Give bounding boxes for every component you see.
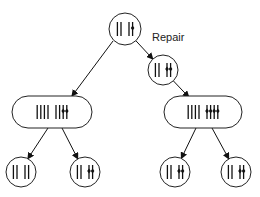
cell-circle xyxy=(109,13,141,45)
node-left-right-child xyxy=(70,157,100,187)
cell-circle xyxy=(221,157,251,187)
arrow-left-replicated-to-left-right-child xyxy=(62,128,78,159)
cell-circle xyxy=(70,157,100,187)
node-right-right-child xyxy=(221,157,251,187)
node-right-left-child xyxy=(160,157,190,187)
arrow-right-replicated-to-right-left-child xyxy=(181,128,196,158)
cell-circle xyxy=(148,55,178,85)
node-right-replicated xyxy=(164,96,242,128)
node-root xyxy=(109,13,141,45)
cell-capsule xyxy=(164,96,242,128)
repair-label: Repair xyxy=(152,31,184,43)
dna-repair-diagram xyxy=(0,0,260,197)
arrow-repaired-to-right-replicated xyxy=(173,81,188,97)
arrow-root-to-left-replicated xyxy=(72,41,113,96)
cell-capsule xyxy=(12,96,92,128)
cell-circle xyxy=(6,157,36,187)
arrow-left-replicated-to-left-left-child xyxy=(28,128,48,159)
arrow-root-to-repaired xyxy=(136,41,153,59)
cell-circle xyxy=(160,157,190,187)
node-repaired xyxy=(148,55,178,85)
node-left-left-child xyxy=(6,157,36,187)
arrow-right-replicated-to-right-right-child xyxy=(212,128,229,159)
node-left-replicated xyxy=(12,96,92,128)
